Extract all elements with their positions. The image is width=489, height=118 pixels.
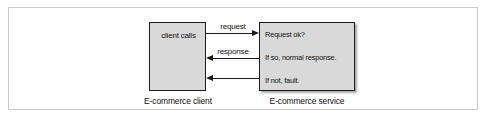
- service-caption: E-commerce service: [261, 96, 353, 106]
- service-box: Request ok? If so, normal response. If n…: [259, 22, 355, 91]
- request-arrow-label: request: [206, 22, 260, 31]
- service-line-normal-response: If so, normal response.: [265, 53, 336, 62]
- service-line-fault: If not, fault.: [265, 76, 299, 85]
- service-line-request-ok: Request ok?: [265, 30, 305, 39]
- figure-frame: client calls Request ok? If so, normal r…: [8, 7, 478, 110]
- response-arrow-label: response: [203, 47, 263, 56]
- fault-arrow-line: [213, 78, 259, 79]
- response-arrow-line: [213, 58, 259, 59]
- client-box: client calls: [149, 22, 206, 91]
- request-arrow-line: [206, 33, 252, 34]
- fault-arrowhead-icon: [206, 75, 213, 81]
- client-box-label: client calls: [150, 31, 207, 40]
- client-caption: E-commerce client: [132, 96, 224, 106]
- figure-container: client calls Request ok? If so, normal r…: [0, 0, 489, 118]
